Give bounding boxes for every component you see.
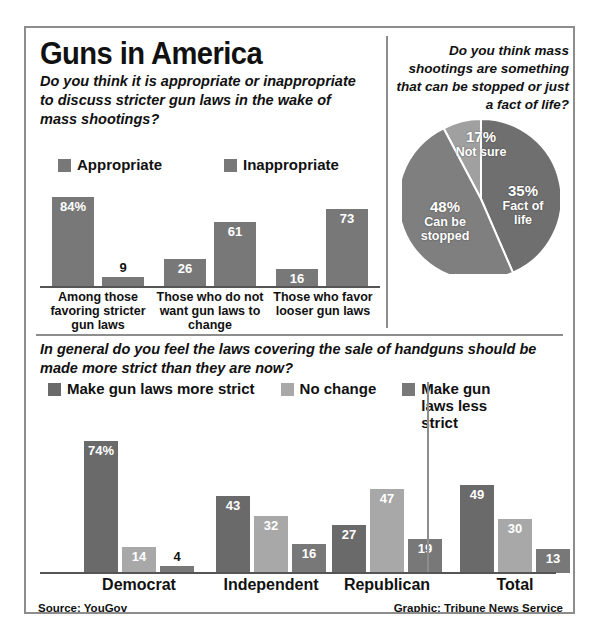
pie-label-not-sure: 17% Not sure bbox=[450, 130, 512, 159]
top-right-panel: Do you think mass shootings are somethin… bbox=[388, 28, 573, 334]
legend-item-more-strict: Make gun laws more strict bbox=[48, 380, 255, 397]
bar-democrat-more-strict: 74% bbox=[84, 441, 118, 573]
bar-total-less-strict: 13 bbox=[536, 549, 570, 573]
legend-swatch-icon bbox=[281, 383, 294, 396]
bar-value-label: 19 bbox=[408, 541, 442, 556]
bar-value-label: 73 bbox=[326, 211, 368, 226]
bar-g3-appropriate: 16 bbox=[276, 269, 318, 287]
bar-value-label: 4 bbox=[160, 549, 194, 564]
bar-value-label: 26 bbox=[164, 261, 206, 276]
top-section: Guns in America Do you think it is appro… bbox=[26, 28, 573, 334]
x-axis-labels-top: Among those favoring stricter gun laws T… bbox=[40, 290, 380, 334]
bar-value-label: 30 bbox=[498, 521, 532, 536]
bar-value-label: 9 bbox=[102, 260, 144, 275]
pie-value-fact-of-life: 35% bbox=[508, 182, 538, 199]
bar-democrat-no-change: 14 bbox=[122, 547, 156, 573]
bar-value-label: 16 bbox=[276, 271, 318, 286]
pie-name-can-be-stopped: Can be stopped bbox=[421, 215, 470, 243]
bar-total-more-strict: 49 bbox=[460, 485, 494, 573]
legend-label: Appropriate bbox=[77, 156, 162, 173]
bar-chart-appropriateness: 84% 9 26 61 16 73 bbox=[40, 180, 380, 288]
bar-independent-no-change: 32 bbox=[254, 516, 288, 573]
legend-item-no-change: No change bbox=[281, 380, 377, 397]
bar-chart-handgun-laws: 74% 14 4 43 32 16 27 47 bbox=[40, 422, 556, 574]
x-axis-labels-bottom: Democrat Independent Republican Total bbox=[40, 576, 556, 598]
bar-g1-appropriate: 84% bbox=[52, 197, 94, 287]
bar-value-label: 27 bbox=[332, 527, 366, 542]
bar-total-no-change: 30 bbox=[498, 519, 532, 573]
legend-swatch-icon bbox=[58, 159, 71, 172]
x-axis-line bbox=[40, 286, 380, 288]
legend-swatch-icon bbox=[48, 383, 61, 396]
bar-value-label: 74% bbox=[84, 443, 118, 458]
bottom-section: In general do you feel the laws covering… bbox=[26, 336, 573, 614]
bar-republican-more-strict: 27 bbox=[332, 525, 366, 573]
vertical-divider-total bbox=[427, 382, 429, 572]
x-label-group2: Those who do not want gun laws to change bbox=[154, 290, 266, 332]
bar-independent-more-strict: 43 bbox=[216, 496, 250, 573]
bar-g2-appropriate: 26 bbox=[164, 259, 206, 287]
legend-item-inappropriate: Inappropriate bbox=[224, 156, 339, 173]
legend-swatch-icon bbox=[402, 383, 415, 396]
bar-value-label: 61 bbox=[214, 224, 256, 239]
legend-swatch-icon bbox=[224, 159, 237, 172]
bar-g3-inappropriate: 73 bbox=[326, 209, 368, 287]
bar-value-label: 84% bbox=[52, 199, 94, 214]
bar-value-label: 47 bbox=[370, 491, 404, 506]
legend-item-appropriate: Appropriate bbox=[58, 156, 162, 173]
bar-value-label: 43 bbox=[216, 498, 250, 513]
bar-value-label: 16 bbox=[292, 546, 326, 561]
x-label-republican: Republican bbox=[320, 576, 454, 594]
x-label-independent: Independent bbox=[204, 576, 338, 594]
legend-label: Inappropriate bbox=[243, 156, 339, 173]
infographic-panel: Guns in America Do you think it is appro… bbox=[24, 26, 575, 614]
bar-value-label: 13 bbox=[536, 551, 570, 566]
pie-name-not-sure: Not sure bbox=[456, 145, 507, 159]
x-label-group1: Among those favoring stricter gun laws bbox=[42, 290, 154, 332]
bar-value-label: 14 bbox=[122, 549, 156, 564]
x-label-democrat: Democrat bbox=[72, 576, 206, 594]
pie-value-not-sure: 17% bbox=[466, 128, 496, 145]
bar-g2-inappropriate: 61 bbox=[214, 222, 256, 287]
question-handgun-laws: In general do you feel the laws covering… bbox=[40, 340, 550, 378]
bar-republican-no-change: 47 bbox=[370, 489, 404, 573]
pie-value-can-be-stopped: 48% bbox=[430, 198, 460, 215]
x-label-group3: Those who favor looser gun laws bbox=[266, 290, 380, 318]
legend-label: Make gun laws more strict bbox=[67, 380, 255, 397]
legend-label: No change bbox=[300, 380, 377, 397]
page-title: Guns in America bbox=[40, 36, 262, 72]
x-label-total: Total bbox=[448, 576, 575, 594]
top-left-panel: Guns in America Do you think it is appro… bbox=[26, 28, 386, 334]
pie-name-fact-of-life: Fact of life bbox=[503, 199, 544, 227]
credit-label: Graphic: Tribune News Service bbox=[394, 602, 563, 614]
bar-value-label: 32 bbox=[254, 518, 288, 533]
pie-label-fact-of-life: 35% Fact of life bbox=[494, 184, 552, 227]
x-axis-line bbox=[40, 572, 556, 574]
bar-value-label: 49 bbox=[460, 487, 494, 502]
question-appropriate: Do you think it is appropriate or inappr… bbox=[40, 72, 370, 129]
question-mass-shootings: Do you think mass shootings are somethin… bbox=[394, 42, 569, 114]
source-label: Source: YouGov bbox=[38, 602, 127, 614]
pie-label-can-be-stopped: 48% Can be stopped bbox=[408, 200, 482, 243]
legend-top-chart: Appropriate Inappropriate bbox=[58, 156, 349, 173]
pie-chart-mass-shootings: 17% Not sure 35% Fact of life 48% Can be… bbox=[402, 116, 560, 274]
bar-independent-less-strict: 16 bbox=[292, 544, 326, 573]
bar-republican-less-strict: 19 bbox=[408, 539, 442, 573]
